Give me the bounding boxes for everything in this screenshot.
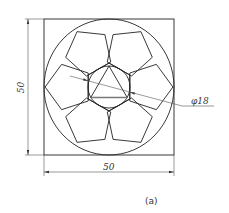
pentagon-lower-right [107, 98, 152, 142]
diameter-dimension-label: φ18 [191, 97, 209, 106]
outer-square [44, 19, 174, 155]
figure-caption: (a) [145, 196, 158, 206]
arrow-diameter-out-icon [130, 92, 136, 95]
arrow-left-top-icon [27, 19, 29, 24]
width-dimension-label: 50 [103, 163, 114, 172]
arrow-left-bottom-icon [27, 150, 29, 155]
pentagon-upper-left [66, 32, 111, 76]
arrow-diameter-in-icon [83, 78, 89, 81]
pentagon-lower-left [66, 98, 111, 142]
outer-circle [44, 19, 174, 155]
pentagon-upper-right [107, 32, 152, 76]
arrow-bottom-left-icon [44, 171, 49, 173]
inner-circle [88, 66, 130, 108]
arrow-bottom-right-icon [169, 171, 174, 173]
height-dimension-label: 50 [17, 82, 26, 93]
center-hexagon [88, 63, 130, 111]
technical-drawing [0, 0, 229, 213]
